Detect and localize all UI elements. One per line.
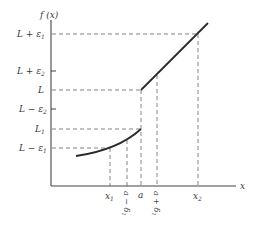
y-label-l-plus-e1: L + ε1: [16, 29, 45, 40]
x-label-a-plus-d1: a + δ1: [151, 191, 161, 216]
y-label-l1: L1: [34, 124, 45, 135]
y-label-l-plus-e2: L + ε2: [16, 66, 45, 77]
y-label-l-minus-e1: L − ε1: [18, 143, 47, 154]
svg-text:a + δ1: a + δ1: [151, 191, 161, 216]
svg-text:L − ε1: L − ε1: [18, 143, 47, 154]
svg-text:a − δ1: a − δ1: [121, 191, 131, 216]
y-axis-label: f (x): [39, 10, 59, 20]
limit-diagram: f (x) x L + ε1 L + ε2 L L − ε2 L1 L − ε1…: [0, 0, 255, 228]
lower-branch-curve: [76, 129, 141, 156]
svg-text:L + ε1: L + ε1: [16, 29, 45, 40]
svg-text:x2: x2: [193, 191, 202, 202]
svg-text:L − ε2: L − ε2: [18, 104, 47, 115]
x-axis-label: x: [240, 181, 245, 191]
svg-text:a: a: [138, 190, 143, 200]
y-label-l: L: [37, 85, 44, 95]
x-label-x1: x1: [105, 191, 114, 202]
y-label-l-minus-e2: L − ε2: [18, 104, 47, 115]
x-label-a: a: [138, 190, 143, 200]
svg-text:L: L: [37, 85, 44, 95]
svg-text:x1: x1: [105, 191, 114, 202]
x-label-x2: x2: [193, 191, 202, 202]
x-label-a-minus-d1: a − δ1: [121, 191, 131, 216]
svg-text:L1: L1: [34, 124, 45, 135]
svg-text:L + ε2: L + ε2: [16, 66, 45, 77]
